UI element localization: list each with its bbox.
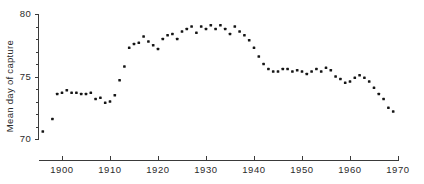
data-point bbox=[80, 93, 83, 96]
data-point bbox=[128, 46, 131, 49]
data-point bbox=[181, 30, 184, 33]
data-point bbox=[282, 68, 285, 71]
x-tick-label: 1940 bbox=[242, 164, 266, 175]
data-point bbox=[387, 106, 390, 109]
data-point bbox=[142, 35, 145, 38]
data-point bbox=[373, 86, 376, 89]
data-point bbox=[248, 39, 251, 42]
scatter-plot: Mean day of capture 707580 1900191019201… bbox=[0, 0, 424, 184]
data-point bbox=[61, 91, 64, 94]
data-point bbox=[123, 65, 126, 68]
data-point bbox=[382, 98, 385, 101]
x-tick-label: 1970 bbox=[386, 164, 410, 175]
x-tick-label: 1960 bbox=[338, 164, 362, 175]
data-point bbox=[94, 98, 97, 101]
data-point bbox=[378, 93, 381, 96]
data-point bbox=[224, 28, 227, 31]
data-point bbox=[162, 38, 165, 41]
data-point bbox=[205, 28, 208, 31]
x-tick-label: 1920 bbox=[146, 164, 170, 175]
data-point bbox=[392, 110, 395, 113]
data-point bbox=[90, 91, 93, 94]
chart-figure: Mean day of capture 707580 1900191019201… bbox=[0, 0, 424, 184]
data-point bbox=[166, 34, 169, 37]
data-point bbox=[243, 34, 246, 37]
x-axis-major-ticks bbox=[63, 156, 399, 161]
data-point bbox=[171, 33, 174, 36]
data-point bbox=[358, 74, 361, 77]
data-point bbox=[51, 118, 54, 121]
data-point bbox=[66, 89, 69, 92]
data-point bbox=[109, 100, 112, 103]
data-point bbox=[152, 44, 155, 47]
x-tick-label: 1900 bbox=[50, 164, 74, 175]
data-point bbox=[286, 68, 289, 71]
data-point bbox=[334, 75, 337, 78]
data-point bbox=[157, 48, 160, 51]
y-axis-tick-labels: 707580 bbox=[20, 8, 32, 144]
data-point bbox=[277, 70, 280, 73]
data-point bbox=[320, 70, 323, 73]
data-point bbox=[147, 40, 150, 43]
y-axis-major-ticks bbox=[35, 15, 39, 140]
data-point bbox=[253, 46, 256, 49]
y-tick-label: 75 bbox=[20, 71, 32, 82]
data-point-group bbox=[42, 24, 395, 133]
data-point bbox=[262, 63, 265, 66]
data-point bbox=[56, 93, 59, 96]
data-point bbox=[330, 69, 333, 72]
data-point bbox=[339, 78, 342, 81]
data-point bbox=[190, 25, 193, 28]
data-point bbox=[200, 25, 203, 28]
data-point bbox=[70, 91, 73, 94]
data-point bbox=[219, 24, 222, 27]
data-point bbox=[325, 66, 328, 69]
data-point bbox=[99, 96, 102, 99]
data-point bbox=[176, 38, 179, 41]
x-tick-label: 1950 bbox=[290, 164, 314, 175]
data-point bbox=[234, 25, 237, 28]
data-point bbox=[368, 80, 371, 83]
data-point bbox=[85, 93, 88, 96]
y-tick-label: 70 bbox=[20, 133, 32, 144]
data-point bbox=[104, 101, 107, 104]
y-axis-title: Mean day of capture bbox=[4, 40, 15, 132]
data-point bbox=[354, 76, 357, 79]
data-point bbox=[315, 68, 318, 71]
data-point bbox=[229, 33, 232, 36]
data-point bbox=[267, 68, 270, 71]
data-point bbox=[75, 91, 78, 94]
data-point bbox=[114, 94, 117, 97]
data-point bbox=[186, 28, 189, 31]
data-point bbox=[195, 31, 198, 34]
data-point bbox=[118, 79, 121, 82]
data-point bbox=[363, 76, 366, 79]
data-point bbox=[238, 30, 241, 33]
y-tick-label: 80 bbox=[20, 8, 32, 19]
data-point bbox=[306, 73, 309, 76]
data-point bbox=[133, 43, 136, 46]
x-tick-label: 1930 bbox=[194, 164, 218, 175]
data-point bbox=[42, 130, 45, 133]
data-point bbox=[349, 80, 352, 83]
x-tick-label: 1910 bbox=[98, 164, 122, 175]
data-point bbox=[258, 55, 261, 58]
data-point bbox=[344, 81, 347, 84]
data-point bbox=[301, 70, 304, 73]
data-point bbox=[210, 24, 213, 27]
data-point bbox=[291, 70, 294, 73]
data-point bbox=[138, 41, 141, 44]
data-point bbox=[214, 28, 217, 31]
data-point bbox=[310, 70, 313, 73]
data-point bbox=[296, 69, 299, 72]
x-axis-tick-labels: 19001910192019301940195019601970 bbox=[50, 164, 410, 175]
data-point bbox=[272, 70, 275, 73]
